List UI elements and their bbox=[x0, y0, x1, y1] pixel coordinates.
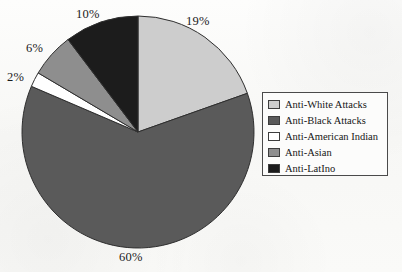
legend-swatch bbox=[268, 148, 280, 157]
legend-swatch bbox=[268, 116, 280, 125]
legend-item-label: Anti-American Indian bbox=[285, 131, 378, 142]
pie-chart-figure: 19% 60% 2% 6% 10% Anti-White AttacksAnti… bbox=[0, 0, 402, 272]
slice-label-anti-asian: 6% bbox=[26, 41, 43, 56]
slice-label-anti-white: 19% bbox=[186, 14, 210, 29]
slice-label-anti-black: 60% bbox=[119, 250, 143, 265]
legend-item: Anti-American Indian bbox=[268, 129, 387, 144]
chart-legend: Anti-White AttacksAnti-Black AttacksAnti… bbox=[262, 92, 388, 176]
legend-item-label: Anti-LatIno bbox=[285, 163, 335, 174]
legend-swatch bbox=[268, 100, 280, 109]
legend-item: Anti-LatIno bbox=[268, 161, 387, 176]
pie-slice-group bbox=[22, 16, 254, 248]
slice-label-anti-latino: 10% bbox=[76, 7, 100, 22]
legend-item: Anti-Asian bbox=[268, 145, 387, 160]
legend-swatch bbox=[268, 132, 280, 141]
legend-item: Anti-Black Attacks bbox=[268, 113, 387, 128]
slice-label-anti-american-indian: 2% bbox=[7, 70, 24, 85]
legend-item-label: Anti-Black Attacks bbox=[285, 115, 366, 126]
legend-item-label: Anti-White Attacks bbox=[285, 99, 367, 110]
legend-item: Anti-White Attacks bbox=[268, 97, 387, 112]
legend-swatch bbox=[268, 164, 280, 173]
legend-item-label: Anti-Asian bbox=[285, 147, 332, 158]
